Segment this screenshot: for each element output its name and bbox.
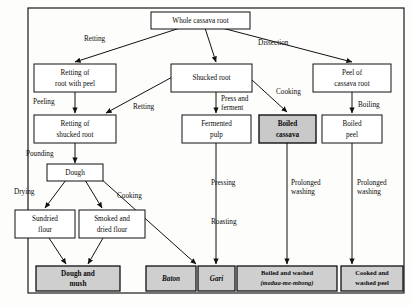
node-label-retting-shucked-root-2: shucked root bbox=[57, 131, 94, 139]
node-shucked-root[interactable]: Shucked root bbox=[171, 64, 252, 92]
node-boiled-peel[interactable]: Boiled peel bbox=[322, 115, 382, 143]
node-label-retting-root-with-peel-1: Retting of bbox=[61, 69, 91, 77]
edge-sundried-to-mush bbox=[49, 238, 66, 264]
edge-whole-to-retting-peel bbox=[75, 28, 180, 62]
node-label-dough-and-mush-2: mush bbox=[70, 280, 87, 288]
edge-label-boiling: Boiling bbox=[358, 101, 380, 109]
node-label-dough: Dough bbox=[65, 169, 85, 177]
node-label-shucked-root: Shucked root bbox=[192, 74, 230, 82]
node-fermented-pulp[interactable]: Fermented pulp bbox=[182, 115, 251, 143]
node-gari[interactable]: Gari bbox=[198, 266, 235, 291]
node-label-fermented-pulp-2: pulp bbox=[210, 131, 223, 139]
node-dough-and-mush[interactable]: Dough and mush bbox=[36, 266, 120, 291]
edge-label-retting-mid: Retting bbox=[133, 103, 155, 111]
node-sundried-flour[interactable]: Sundried flour bbox=[15, 210, 75, 238]
edge-label-prolonged-washing-b-1: Prolonged bbox=[357, 179, 387, 187]
node-retting-root-with-peel[interactable]: Retting of root with peel bbox=[34, 64, 116, 92]
node-whole-cassava-root[interactable]: Whole cassava root bbox=[151, 12, 250, 29]
edge-label-cooking-top: Cooking bbox=[276, 88, 301, 96]
node-dough[interactable]: Dough bbox=[47, 164, 103, 181]
node-label-dough-and-mush-1: Dough and bbox=[61, 270, 95, 278]
node-cooked-and-washed-peel[interactable]: Cooked and washed peel bbox=[341, 266, 403, 291]
node-label-boiled-cassava-1: Boiled bbox=[278, 120, 298, 128]
figure-container: Retting Dissection Peeling Retting Press… bbox=[0, 0, 411, 306]
edge-label-dissection: Dissection bbox=[258, 39, 289, 47]
edge-label-peeling: Peeling bbox=[33, 98, 55, 106]
node-smoked-dried-flour[interactable]: Smoked and dried flour bbox=[79, 210, 145, 238]
node-label-sundried-flour-2: flour bbox=[38, 226, 53, 234]
node-label-retting-shucked-root-1: Retting of bbox=[61, 120, 91, 128]
node-label-boiled-cassava-2: cassava bbox=[276, 131, 300, 139]
node-label-peel-of-cassava-root-2: cassava root bbox=[334, 80, 369, 88]
node-label-boiled-and-washed-2: (medua-me-mbong) bbox=[260, 279, 313, 287]
node-baton[interactable]: Baton bbox=[146, 266, 196, 291]
edge-label-pounding: Pounding bbox=[26, 150, 54, 158]
node-boiled-and-washed[interactable]: Boiled and washed (medua-me-mbong) bbox=[237, 266, 337, 291]
edge-label-pressing: Pressing bbox=[211, 179, 236, 187]
node-label-smoked-dried-flour-1: Smoked and bbox=[94, 215, 130, 223]
edge-label-drying: Drying bbox=[14, 188, 35, 196]
node-label-baton: Baton bbox=[161, 275, 180, 283]
node-label-fermented-pulp-1: Fermented bbox=[201, 120, 232, 128]
edge-smoked-to-mush bbox=[88, 238, 103, 264]
edge-cooking-top bbox=[252, 80, 287, 112]
node-label-sundried-flour-1: Sundried bbox=[32, 215, 58, 223]
edge-label-retting-top: Retting bbox=[84, 35, 106, 43]
node-label-boiled-and-washed-1: Boiled and washed bbox=[261, 269, 313, 276]
edge-label-prolonged-washing-b-2: washing bbox=[357, 188, 381, 196]
node-retting-shucked-root[interactable]: Retting of shucked root bbox=[34, 115, 116, 143]
node-label-peel-of-cassava-root-1: Peel of bbox=[342, 69, 363, 77]
node-label-boiled-peel-1: Boiled bbox=[342, 120, 362, 128]
edge-dough-to-smoked bbox=[85, 180, 102, 208]
node-label-boiled-peel-2: peel bbox=[346, 131, 358, 139]
node-label-cooked-and-washed-peel-2: washed peel bbox=[355, 279, 389, 286]
node-label-whole-cassava-root: Whole cassava root bbox=[172, 17, 228, 25]
edge-whole-to-shucked bbox=[205, 28, 216, 62]
edge-label-press-and-ferment-2: ferment bbox=[221, 104, 243, 112]
edge-label-prolonged-washing-a-1: Prolonged bbox=[291, 179, 321, 187]
node-label-cooked-and-washed-peel-1: Cooked and bbox=[355, 269, 389, 276]
edge-drying bbox=[45, 180, 66, 208]
node-label-gari: Gari bbox=[210, 275, 224, 283]
edge-label-prolonged-washing-a-2: washing bbox=[291, 188, 315, 196]
cassava-flowchart: Retting Dissection Peeling Retting Press… bbox=[0, 0, 411, 306]
edge-label-cooking-dough: Cooking bbox=[117, 192, 142, 200]
edge-label-press-and-ferment-1: Press and bbox=[221, 95, 249, 103]
node-label-retting-root-with-peel-2: root with peel bbox=[55, 80, 95, 88]
node-label-smoked-dried-flour-2: dried flour bbox=[97, 226, 128, 234]
node-peel-of-cassava-root[interactable]: Peel of cassava root bbox=[313, 64, 391, 92]
edge-label-roasting: Roasting bbox=[211, 218, 237, 226]
node-boiled-cassava[interactable]: Boiled cassava bbox=[259, 115, 316, 143]
